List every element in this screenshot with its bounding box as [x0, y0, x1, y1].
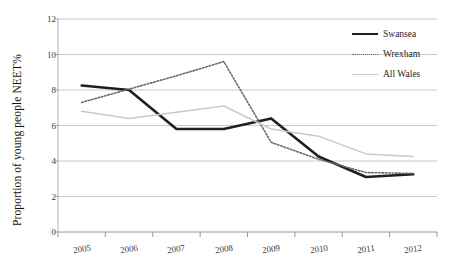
legend-item: Swansea [352, 24, 447, 44]
series-line-all-wales [82, 106, 414, 157]
legend-label: Swansea [383, 29, 416, 39]
legend-label: Wrexham [383, 49, 420, 59]
series-line-swansea [82, 86, 414, 177]
legend-item: Wrexham [352, 44, 447, 64]
chart-container: Proportion of young people NEET% 0246810… [0, 0, 449, 279]
legend-swatch-icon [352, 54, 378, 55]
legend-item: All Wales [352, 64, 447, 84]
legend-swatch-icon [352, 74, 378, 75]
legend-swatch-icon [352, 33, 378, 35]
legend-label: All Wales [383, 69, 420, 79]
chart-legend: SwanseaWrexhamAll Wales [352, 24, 447, 84]
